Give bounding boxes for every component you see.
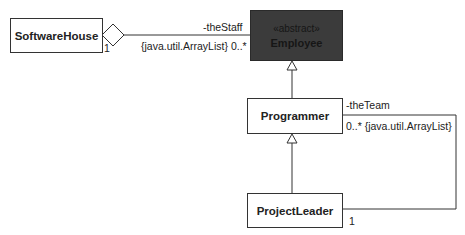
class-stereotype: «abstract» <box>273 23 320 34</box>
class-name: SoftwareHouse <box>15 30 99 42</box>
class-employee[interactable]: «abstract» Employee <box>250 10 343 61</box>
class-project-leader[interactable]: ProjectLeader <box>247 193 343 228</box>
class-programmer[interactable]: Programmer <box>247 98 343 134</box>
role-label-the-staff: -theStaff <box>203 21 243 33</box>
class-name: Employee <box>271 37 323 49</box>
generalization-arrowhead-icon <box>287 134 297 143</box>
generalization-arrowhead-icon <box>287 61 297 70</box>
role-label-the-team: -theTeam <box>346 99 390 111</box>
constraint-label-team: 0..* {java.util.ArrayList} <box>346 120 452 132</box>
class-name: Programmer <box>261 110 329 122</box>
class-software-house[interactable]: SoftwareHouse <box>10 18 103 53</box>
class-name: ProjectLeader <box>257 205 334 217</box>
uml-class-diagram: SoftwareHouse «abstract» Employee Progra… <box>0 0 465 235</box>
multiplicity-label-house: 1 <box>104 42 110 54</box>
multiplicity-label-leader: 1 <box>349 215 355 227</box>
constraint-label-staff: {java.util.ArrayList} 0..* <box>141 40 247 52</box>
